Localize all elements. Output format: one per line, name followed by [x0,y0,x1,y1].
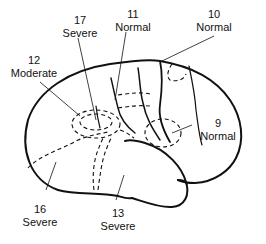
region-11 [118,93,150,108]
leader-9 [172,125,192,133]
label-17-number: 17 [58,14,102,27]
label-16-number: 16 [20,203,60,216]
label-9-status: Normal [192,130,244,143]
leader-10 [160,36,214,62]
inferior-outline [58,190,132,198]
region-16-boundary [28,132,108,168]
label-10-number: 10 [186,8,242,21]
label-12-number: 12 [4,54,64,67]
label-area-16: 16 Severe [20,203,60,229]
label-area-13: 13 Severe [96,207,140,233]
inferior-frontal-sulcus [96,106,100,128]
label-13-number: 13 [96,207,140,220]
label-12-status: Moderate [4,67,64,80]
region-13-boundary-right [98,136,112,190]
label-10-status: Normal [186,21,242,34]
precentral-sulcus [138,68,160,140]
label-area-9: 9 Normal [192,117,244,143]
label-area-12: 12 Moderate [4,54,64,80]
region-17-inner [80,114,112,130]
label-area-11: 11 Normal [108,8,158,34]
label-17-status: Severe [58,27,102,40]
frontal-sulcus [111,78,135,133]
leader-12 [40,82,80,116]
label-11-status: Normal [108,21,158,34]
label-11-number: 11 [108,8,158,21]
label-9-number: 9 [192,117,244,130]
temporal-lobe-outline [125,140,187,207]
label-13-status: Severe [96,220,140,233]
label-area-17: 17 Severe [58,14,102,40]
label-16-status: Severe [20,216,60,229]
leader-11 [115,32,126,100]
leader-17 [78,38,96,120]
label-area-10: 10 Normal [186,8,242,34]
